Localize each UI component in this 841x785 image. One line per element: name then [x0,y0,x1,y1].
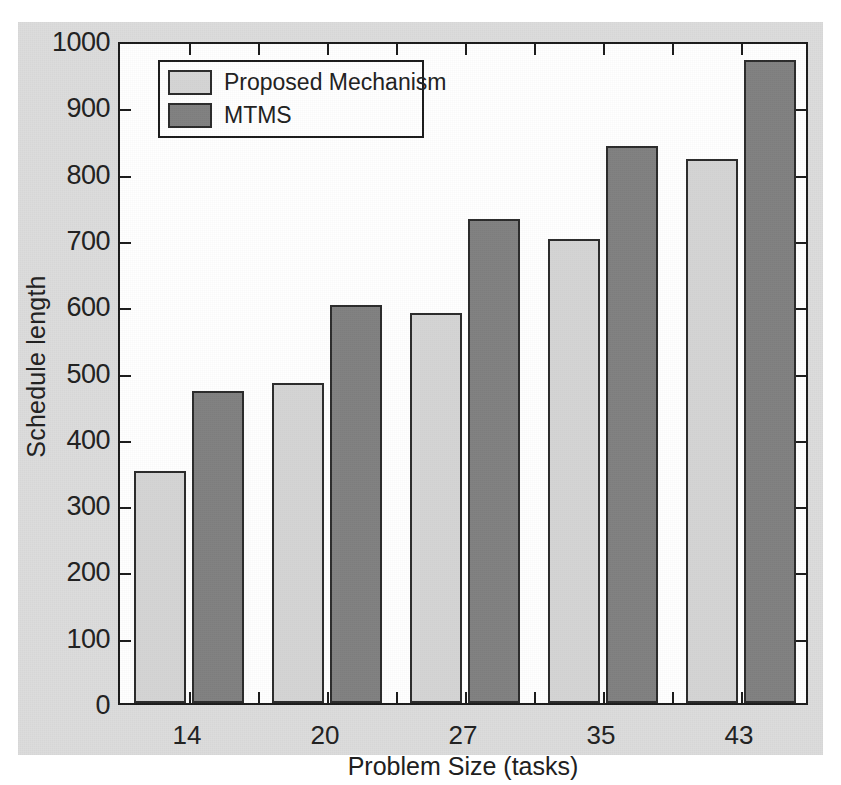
bar [272,383,324,703]
y-tick-mark [120,441,131,443]
y-tick-label: 200 [66,557,110,588]
x-tick-mark [189,44,191,55]
y-tick-label: 800 [66,159,110,190]
x-tick-mark [603,692,605,703]
legend-swatch-mtms [168,103,212,128]
y-tick-mark [120,176,131,178]
bar [134,471,186,703]
x-tick-mark [672,692,674,703]
x-tick-mark [534,692,536,703]
y-tick-label: 300 [66,491,110,522]
x-tick-mark [534,44,536,55]
bar [468,219,520,703]
figure-card: 01002003004005006007008009001000 Schedul… [18,22,823,755]
x-tick-mark [258,44,260,55]
x-tick-mark [603,44,605,55]
y-tick-mark [120,308,131,310]
legend-swatch-proposed-mechanism [168,70,212,95]
x-tick-mark [465,692,467,703]
bar [192,391,244,703]
legend-label-proposed-mechanism: Proposed Mechanism [224,69,446,96]
x-tick-mark [327,692,329,703]
y-tick-mark [120,507,131,509]
x-axis-title: Problem Size (tasks) [118,752,808,781]
x-tick-mark [741,44,743,55]
y-tick-mark [795,242,806,244]
y-axis-title: Schedule length [22,157,51,577]
y-tick-mark [795,507,806,509]
y-tick-mark [795,176,806,178]
y-tick-mark [120,109,131,111]
x-tick-mark [396,692,398,703]
y-tick-label: 500 [66,358,110,389]
x-tick-mark [741,692,743,703]
bar [686,159,738,703]
x-tick-mark [672,44,674,55]
legend-entry-proposed-mechanism: Proposed Mechanism [168,66,422,99]
y-tick-mark [120,640,131,642]
y-tick-label: 400 [66,424,110,455]
y-tick-mark [795,441,806,443]
y-tick-mark [120,375,131,377]
y-tick-mark [795,573,806,575]
x-axis-tick-labels: 1420273543 [118,712,808,752]
y-tick-mark [795,375,806,377]
bar [548,239,600,703]
chart-page: 01002003004005006007008009001000 Schedul… [0,0,841,785]
x-tick-mark [189,692,191,703]
x-tick-mark [327,44,329,55]
plot-area: Proposed Mechanism MTMS [118,42,808,705]
y-tick-mark [795,109,806,111]
x-tick-label: 43 [725,720,754,751]
y-tick-mark [120,242,131,244]
legend-label-mtms: MTMS [224,102,292,129]
x-tick-label: 14 [173,720,202,751]
legend: Proposed Mechanism MTMS [158,60,424,138]
bar [606,146,658,703]
y-tick-label: 1000 [52,27,110,58]
y-tick-mark [795,308,806,310]
y-tick-label: 0 [95,690,110,721]
y-tick-label: 700 [66,225,110,256]
x-tick-label: 27 [449,720,478,751]
legend-entry-mtms: MTMS [168,99,422,132]
bar [330,305,382,703]
y-tick-label: 100 [66,623,110,654]
y-tick-mark [120,573,131,575]
x-tick-mark [396,44,398,55]
bar [410,313,462,703]
x-tick-mark [465,44,467,55]
y-tick-mark [795,640,806,642]
x-tick-label: 35 [587,720,616,751]
y-tick-label: 900 [66,93,110,124]
bar [744,60,796,703]
y-tick-label: 600 [66,292,110,323]
x-tick-mark [258,692,260,703]
x-tick-label: 20 [311,720,340,751]
